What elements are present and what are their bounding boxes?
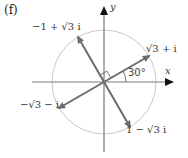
vector-neg1-plus-sqrt3i	[78, 37, 104, 82]
point-label-sqrt3-plus-i: √3 + i	[146, 44, 177, 54]
angle-label: 30°	[128, 68, 146, 78]
y-axis-label: y	[110, 2, 116, 12]
x-axis-label: x	[165, 66, 171, 76]
point-label-neg1-plus-sqrt3i: −1 + √3 i	[32, 22, 81, 32]
point-label-neg-sqrt3-minus-i: −√3 − i	[20, 100, 59, 110]
point-label-1-minus-sqrt3i: 1 − √3 i	[126, 125, 166, 135]
vector-neg-sqrt3-minus-i	[59, 82, 104, 108]
part-label: (f)	[4, 4, 18, 16]
vector-1-minus-sqrt3i	[104, 82, 130, 127]
angle-arc-30	[123, 71, 126, 82]
